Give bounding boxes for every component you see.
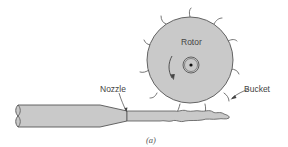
rotor-axle-dot bbox=[189, 63, 192, 66]
water-jet bbox=[127, 110, 229, 121]
rotor-disk bbox=[147, 17, 233, 103]
turbine-figure: Rotor Nozzle Bucket (a) bbox=[0, 0, 288, 147]
nozzle-label: Nozzle bbox=[100, 85, 126, 94]
bucket-label: Bucket bbox=[244, 85, 270, 94]
rotor-label: Rotor bbox=[181, 38, 202, 47]
figure-caption: (a) bbox=[146, 136, 156, 145]
supply-pipe bbox=[16, 105, 127, 127]
turbine-drawing bbox=[0, 0, 288, 147]
